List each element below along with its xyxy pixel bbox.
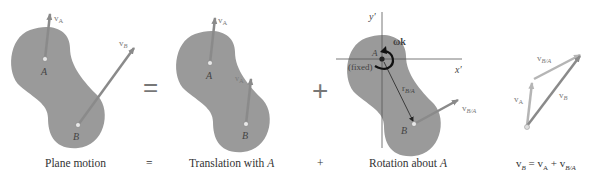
point-B-label: B: [401, 125, 407, 136]
equals-operator: =: [143, 72, 158, 102]
caption-plane-motion: Plane motion: [45, 157, 106, 169]
caption-velocity-equation: vB = vA + vB/A: [516, 157, 576, 172]
point-A-label: A: [371, 48, 378, 58]
point-A-dot: [43, 57, 48, 62]
eq-plus: +: [548, 157, 560, 169]
point-A-label: A: [40, 66, 48, 77]
vector-vB: [527, 56, 580, 126]
point-B-label: B: [73, 131, 79, 142]
x-prime-label: x′: [454, 64, 462, 75]
vA-label: vA: [514, 94, 524, 105]
rigid-body-shape: [11, 27, 105, 148]
caption-translation-text: Translation with: [189, 157, 267, 169]
caption-translation: Translation with A: [189, 157, 274, 169]
caption-rotation-text: Rotation about: [369, 157, 440, 169]
panel-vector-triangle: vB/A vA vB: [514, 53, 580, 130]
point-A-label: A: [205, 70, 213, 81]
eq-equals: =: [526, 157, 538, 169]
vB-label: vB: [119, 38, 128, 49]
panel-translation: A B vA vA: [176, 15, 270, 152]
eq-vBA-sub: B/A: [565, 164, 576, 172]
caption-rotation: Rotation about A: [369, 157, 447, 169]
point-B-dot: [244, 122, 249, 127]
point-B-dot: [76, 123, 81, 128]
caption-rotation-point: A: [440, 157, 447, 169]
origin-dot: [525, 125, 530, 130]
point-B-dot: [412, 122, 417, 127]
caption-plus: +: [317, 157, 324, 169]
rigid-body-shape: [176, 31, 270, 152]
vA-label: vA: [54, 13, 64, 24]
vBA-label: vB/A: [537, 53, 551, 64]
rigid-body-plane-motion-diagram: A B vA vB = A B vA vA + y′ x′: [0, 0, 589, 183]
panel-plane-motion: A B vA vB: [11, 13, 134, 148]
vBA-label: vB/A: [462, 103, 476, 114]
fixed-label: (fixed): [348, 62, 373, 72]
point-A-dot: [208, 61, 213, 66]
rigid-body-shape: [347, 35, 441, 156]
vB-label: vB: [559, 90, 568, 101]
point-B-label: B: [242, 130, 248, 141]
panel-rotation: y′ x′ ωk A (fixed) rB/A B vB/A: [336, 11, 476, 156]
caption-translation-point: A: [267, 157, 274, 169]
caption-equals: =: [146, 157, 153, 169]
point-A-fixed-dot: [379, 56, 384, 61]
omega-k-label: ωk: [393, 36, 406, 47]
plus-operator: +: [312, 75, 328, 106]
y-prime-label: y′: [368, 11, 376, 22]
vA-label-at-A: vA: [218, 15, 228, 26]
